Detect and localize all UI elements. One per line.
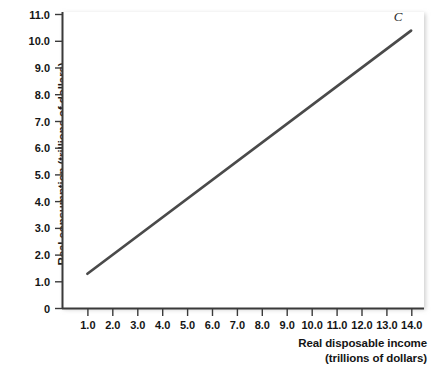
- x-tick-label: 14.0: [401, 319, 422, 331]
- x-tick-label: 11.0: [327, 319, 348, 331]
- plot-area: 0 1.0 2.0 3.0 4.0 5.0 6.0 7.0 8.0 9.0 10…: [0, 0, 435, 378]
- x-tick-label: 6.0: [205, 319, 220, 331]
- y-tick-label: 5.0: [35, 169, 50, 181]
- x-tick-label: 3.0: [130, 319, 145, 331]
- y-tick-label: 2.0: [35, 249, 50, 261]
- curve-label-c: C: [394, 9, 403, 24]
- x-tick-label: 5.0: [180, 319, 195, 331]
- x-tick-label: 12.0: [351, 319, 372, 331]
- x-tick-label: 7.0: [230, 319, 245, 331]
- x-tick-label: 9.0: [280, 319, 295, 331]
- x-tick-label: 10.0: [301, 319, 322, 331]
- y-tick-label: 3.0: [35, 222, 50, 234]
- x-axis-ticks: [88, 309, 412, 317]
- y-tick-label: 4.0: [35, 196, 50, 208]
- y-tick-label: 9.0: [35, 62, 50, 74]
- y-tick-label: 6.0: [35, 142, 50, 154]
- x-tick-label: 1.0: [80, 319, 95, 331]
- y-tick-label: 0: [44, 303, 50, 315]
- y-axis-ticks: [55, 15, 62, 309]
- x-tick-label: 8.0: [255, 319, 270, 331]
- y-tick-label: 7.0: [35, 116, 50, 128]
- y-tick-label: 11.0: [29, 9, 50, 21]
- x-axis-tick-labels: 1.0 2.0 3.0 4.0 5.0 6.0 7.0 8.0 9.0 10.0…: [80, 319, 422, 331]
- y-tick-label: 10.0: [29, 35, 50, 47]
- y-tick-label: 1.0: [35, 276, 50, 288]
- plot-background: [62, 12, 424, 308]
- y-tick-label: 8.0: [35, 89, 50, 101]
- x-tick-label: 4.0: [155, 319, 170, 331]
- x-tick-label: 2.0: [105, 319, 120, 331]
- consumption-function-figure: Real consumption (trillions of dollars) …: [0, 0, 435, 378]
- x-tick-label: 13.0: [376, 319, 397, 331]
- y-axis-tick-labels: 0 1.0 2.0 3.0 4.0 5.0 6.0 7.0 8.0 9.0 10…: [29, 9, 50, 315]
